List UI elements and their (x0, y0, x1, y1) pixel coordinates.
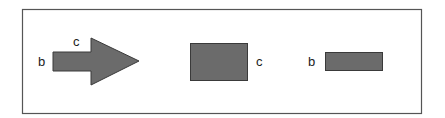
bar-label-b: b (308, 54, 315, 69)
arrow-label-b: b (38, 54, 45, 69)
arrow-label-c: c (73, 34, 80, 49)
bar-shape (326, 53, 383, 71)
square-shape (191, 44, 248, 81)
square-label-c: c (256, 54, 263, 69)
diagram-canvas: b c c b (0, 0, 445, 118)
